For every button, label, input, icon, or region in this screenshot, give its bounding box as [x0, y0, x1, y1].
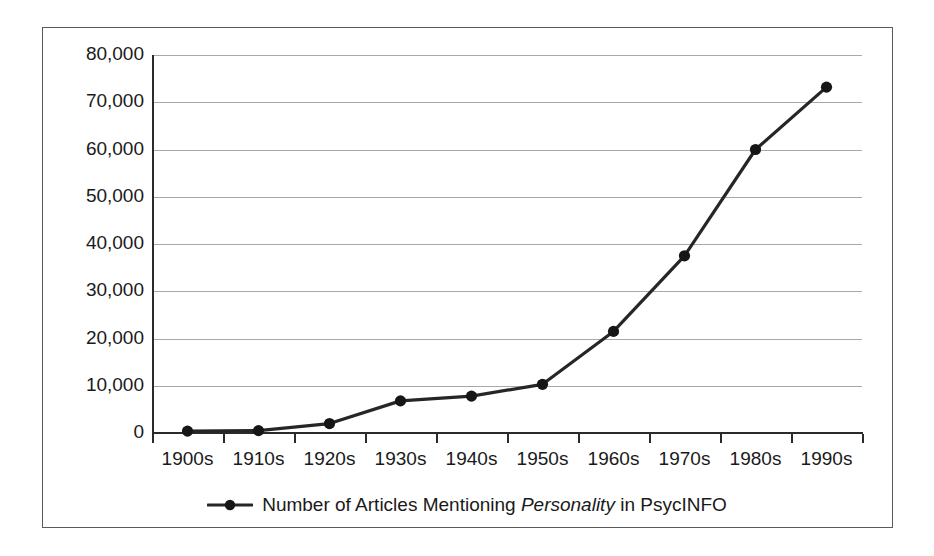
data-point — [253, 425, 264, 436]
data-series-layer — [0, 0, 934, 556]
legend-label: Number of Articles Mentioning Personalit… — [262, 494, 727, 516]
series-markers — [182, 82, 832, 437]
data-point — [182, 426, 193, 437]
data-point — [395, 395, 406, 406]
legend-label-suffix: in PsycINFO — [615, 494, 727, 515]
data-point — [821, 82, 832, 93]
data-point — [466, 391, 477, 402]
figure: 80,00070,00060,00050,00040,00030,00020,0… — [0, 0, 934, 556]
data-point — [679, 250, 690, 261]
data-point — [608, 326, 619, 337]
data-point — [537, 379, 548, 390]
data-point — [750, 144, 761, 155]
legend-marker-icon — [207, 498, 253, 512]
legend-label-prefix: Number of Articles Mentioning — [262, 494, 521, 515]
data-point — [324, 418, 335, 429]
legend-label-emphasis: Personality — [521, 494, 615, 515]
series-line — [188, 87, 827, 431]
legend: Number of Articles Mentioning Personalit… — [0, 494, 934, 516]
